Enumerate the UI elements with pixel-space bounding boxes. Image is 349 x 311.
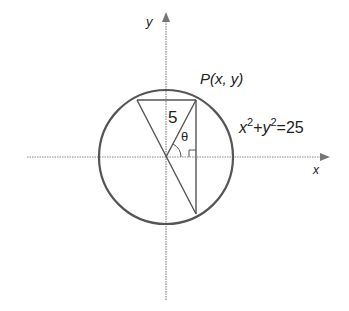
angle-arc — [173, 144, 181, 157]
point-label: P(x, y) — [200, 70, 243, 87]
eq-rhs: =25 — [277, 119, 304, 136]
x-axis-label: x — [312, 163, 320, 177]
angle-label: θ — [181, 129, 188, 144]
circle-equation: x2+y2=25 — [238, 116, 304, 136]
svg-text:x2+y2=25: x2+y2=25 — [238, 116, 304, 136]
eq-plus: + — [253, 119, 262, 136]
y-axis-label: y — [145, 14, 154, 29]
radius-label: 5 — [168, 108, 177, 127]
right-angle-marker — [189, 150, 196, 157]
unit-circle-diagram: y x P(x, y) 5 θ x2+y2=25 — [0, 0, 349, 311]
